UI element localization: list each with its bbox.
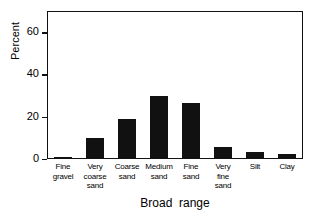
bar — [182, 103, 200, 159]
y-axis-tick-label: 60 — [27, 25, 39, 38]
x-axis-tick-label: Clay — [268, 162, 306, 172]
bar — [278, 154, 296, 159]
bar-chart: Percent 0204060 Fine gravelVery coarse s… — [0, 0, 320, 221]
y-axis-title: Percent — [9, 1, 23, 81]
x-axis-tick-labels: Fine gravelVery coarse sandCoarse sandMe… — [47, 162, 303, 198]
x-axis-title: Broad range — [47, 196, 303, 210]
y-axis-tick-label: 0 — [33, 152, 39, 165]
y-axis-tick: 40 — [0, 74, 47, 75]
bar — [118, 119, 136, 159]
bar — [150, 96, 168, 159]
bar-series — [47, 11, 303, 159]
y-axis-tick: 20 — [0, 117, 47, 118]
bar — [86, 138, 104, 159]
y-axis-tick-label: 20 — [27, 110, 39, 123]
y-axis-tick-mark — [42, 159, 47, 160]
y-axis-tick-label: 40 — [27, 67, 39, 80]
y-axis-tick: 60 — [0, 32, 47, 33]
bar — [246, 152, 264, 159]
bar — [214, 147, 232, 159]
bar — [54, 157, 72, 159]
y-axis-tick: 0 — [0, 159, 47, 160]
